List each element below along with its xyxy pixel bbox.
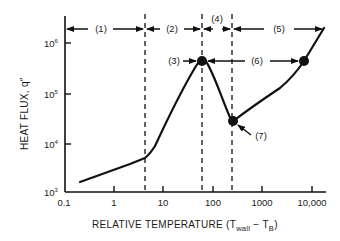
y-axis-title: HEAT FLUX, q″ xyxy=(19,77,30,150)
x-axis-title: RELATIVE TEMPERATURE (Twall − TB) xyxy=(92,219,278,233)
region-label-2: (2) xyxy=(166,23,178,34)
x-tick-label: 100 xyxy=(205,197,221,208)
x-ticks xyxy=(114,186,312,192)
y-ticks xyxy=(65,43,71,144)
y-tick-label: 103 xyxy=(44,187,59,198)
region-label-6: (6) xyxy=(251,55,263,66)
point-6-end xyxy=(299,56,309,66)
y-tick-label: 106 xyxy=(44,38,59,49)
axes xyxy=(65,16,326,192)
region-arrows xyxy=(67,29,322,135)
x-tick-label: 0.1 xyxy=(57,197,70,208)
x-tick-label: 10 xyxy=(158,197,169,208)
region-boundaries xyxy=(145,14,232,192)
point-7 xyxy=(228,116,238,126)
x-tick-label: 1 xyxy=(111,197,116,208)
region-label-1: (1) xyxy=(95,23,107,34)
boiling-curve-chart: 103 104 105 106 0.1 1 10 100 1000 10,000 xyxy=(0,0,340,241)
annotation-7: (7) xyxy=(255,130,267,141)
marked-points xyxy=(197,56,309,126)
x-tick-label: 10,000 xyxy=(297,197,326,208)
annotation-3: (3) xyxy=(168,55,180,66)
y-tick-labels: 103 104 105 106 xyxy=(44,38,59,198)
x-tick-label: 1000 xyxy=(251,197,272,208)
y-tick-label: 104 xyxy=(44,139,59,150)
x-tick-labels: 0.1 1 10 100 1000 10,000 xyxy=(57,197,326,208)
region-label-5: (5) xyxy=(273,23,285,34)
region-label-4: (4) xyxy=(211,13,223,24)
point-3 xyxy=(197,56,207,66)
y-tick-label: 105 xyxy=(44,89,59,100)
